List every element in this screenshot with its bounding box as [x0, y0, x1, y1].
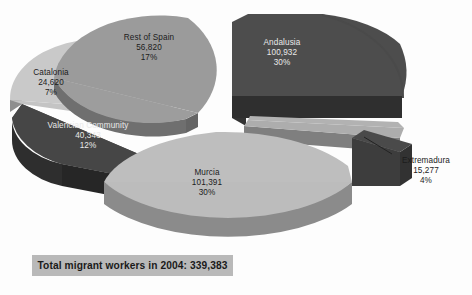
- slice-label-valencian-community-percent: 12%: [25, 141, 151, 151]
- slice-label-murcia-value: 101,391: [162, 178, 252, 188]
- slice-label-catalonia: Catalonia 24,620 7%: [14, 68, 88, 98]
- slice-label-valencian-community-value: 40,343: [25, 131, 151, 141]
- slice-label-catalonia-value: 24,620: [14, 78, 88, 88]
- slice-label-murcia-name: Murcia: [162, 168, 252, 178]
- slice-andalusia[interactable]: [232, 14, 406, 126]
- slice-label-andalusia-name: Andalusia: [236, 38, 328, 48]
- chart-caption-text: Total migrant workers in 2004: 339,383: [38, 260, 228, 271]
- slice-label-andalusia-percent: 30%: [236, 58, 328, 68]
- slice-label-catalonia-percent: 7%: [14, 88, 88, 98]
- slice-label-murcia-percent: 30%: [162, 188, 252, 198]
- slice-label-valencian-community-name: Valencian Community: [25, 121, 151, 131]
- slice-label-rest-of-spain: Rest of Spain 56,820 17%: [104, 33, 194, 63]
- slice-label-valencian-community: Valencian Community 40,343 12%: [25, 121, 151, 151]
- slice-andalusia-side-bottom: [232, 96, 402, 118]
- pie-chart-figure: Andalusia 100,932 30% Rest of Spain 56,8…: [0, 0, 472, 295]
- slice-label-rest-of-spain-percent: 17%: [104, 53, 194, 63]
- slice-label-rest-of-spain-value: 56,820: [104, 43, 194, 53]
- slice-label-murcia: Murcia 101,391 30%: [162, 168, 252, 198]
- slice-label-extremadura-name: Extremadura: [385, 156, 467, 166]
- chart-caption-box: Total migrant workers in 2004: 339,383: [32, 255, 233, 276]
- slice-label-extremadura-value: 15,277: [385, 166, 467, 176]
- slice-label-andalusia: Andalusia 100,932 30%: [236, 38, 328, 68]
- slice-label-extremadura: Extremadura 15,277 4%: [385, 156, 467, 186]
- slice-label-extremadura-percent: 4%: [385, 176, 467, 186]
- slice-label-rest-of-spain-name: Rest of Spain: [104, 33, 194, 43]
- slice-label-catalonia-name: Catalonia: [14, 68, 88, 78]
- slice-label-andalusia-value: 100,932: [236, 48, 328, 58]
